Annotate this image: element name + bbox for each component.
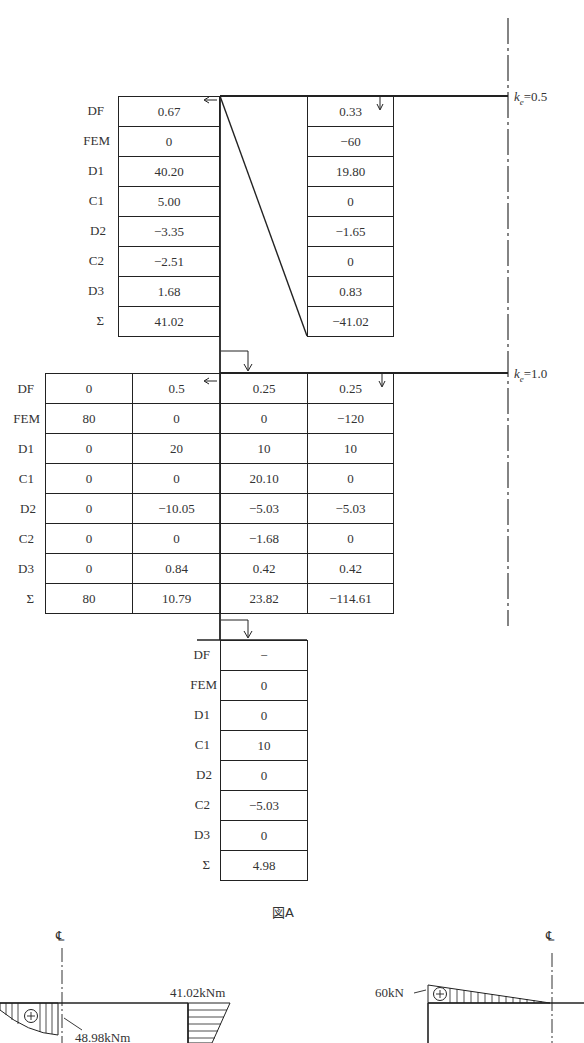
row-label-df: DF	[170, 647, 210, 663]
mid-col3-df: 0.25	[307, 373, 394, 404]
bottom-df: −	[220, 640, 308, 671]
row-label-d1: D1	[0, 441, 34, 457]
stiffness-label-middle: ke=1.0	[514, 366, 547, 384]
row-label-c1: C1	[0, 471, 34, 487]
row-label-fem: FEM	[70, 133, 110, 149]
row-label-c1: C1	[64, 193, 104, 209]
mid-col2-d2: −5.03	[220, 493, 308, 524]
figure-caption: 図A	[272, 902, 294, 921]
row-label-d3: D3	[64, 283, 104, 299]
carryover-bracket-2	[221, 620, 248, 637]
row-label-c2: C2	[170, 797, 210, 813]
row-label-df: DF	[0, 381, 34, 397]
top-left-fem: 0	[118, 126, 220, 157]
top-right-sum: −41.02	[307, 306, 394, 337]
bottom-d3: 0	[220, 820, 308, 851]
mid-col3-d1: 10	[307, 433, 394, 464]
row-label-sum: Σ	[64, 313, 104, 329]
top-right-c2: 0	[307, 246, 394, 277]
mid-col2-d3: 0.42	[220, 553, 308, 584]
mid-col3-d3: 0.42	[307, 553, 394, 584]
row-label-d3: D3	[0, 561, 34, 577]
mid-col0-d1: 0	[45, 433, 133, 464]
row-label-c1: C1	[170, 737, 210, 753]
mid-col2-d1: 10	[220, 433, 308, 464]
mid-col0-sum: 80	[45, 583, 133, 614]
mid-col0-d3: 0	[45, 553, 133, 584]
mid-col1-c2: 0	[132, 523, 221, 554]
row-label-sum: Σ	[170, 857, 210, 873]
mid-col3-c2: 0	[307, 523, 394, 554]
mid-col0-df: 0	[45, 373, 133, 404]
top-left-d1: 40.20	[118, 156, 220, 187]
carryover-diagonal	[220, 96, 307, 336]
row-label-d2: D2	[0, 501, 36, 517]
mid-col1-d1: 20	[132, 433, 221, 464]
bottom-d1: 0	[220, 700, 308, 731]
end-moment-label: 41.02kNm	[170, 985, 225, 1001]
mid-col3-fem: −120	[307, 403, 394, 434]
mid-col3-sum: −114.61	[307, 583, 394, 614]
top-right-df: 0.33	[307, 96, 394, 127]
bottom-c1: 10	[220, 730, 308, 761]
bottom-sum: 4.98	[220, 850, 308, 881]
mid-col1-sum: 10.79	[132, 583, 221, 614]
row-label-fem: FEM	[177, 677, 217, 693]
mid-col1-d3: 0.84	[132, 553, 221, 584]
bottom-d2: 0	[220, 760, 308, 791]
carryover-bracket-1	[221, 351, 248, 370]
row-label-fem: FEM	[0, 411, 40, 427]
mid-col2-c2: −1.68	[220, 523, 308, 554]
top-right-c1: 0	[307, 186, 394, 217]
mid-col3-c1: 0	[307, 463, 394, 494]
mid-col1-df: 0.5	[132, 373, 221, 404]
row-label-sum: Σ	[0, 591, 34, 607]
row-label-c2: C2	[64, 253, 104, 269]
mid-col0-c1: 0	[45, 463, 133, 494]
centerline-symbol-left: ℄	[56, 928, 64, 944]
mid-moment-label: 48.98kNm	[75, 1030, 130, 1043]
top-right-d3: 0.83	[307, 276, 394, 307]
top-left-df: 0.67	[118, 96, 220, 127]
mid-col0-c2: 0	[45, 523, 133, 554]
row-label-d3: D3	[170, 827, 210, 843]
row-label-d1: D1	[64, 163, 104, 179]
bottom-c2: −5.03	[220, 790, 308, 821]
top-right-d1: 19.80	[307, 156, 394, 187]
row-label-d2: D2	[66, 223, 106, 239]
row-label-d1: D1	[170, 707, 210, 723]
row-label-c2: C2	[0, 531, 34, 547]
shear-label: 60kN	[375, 985, 404, 1001]
mid-col2-sum: 23.82	[220, 583, 308, 614]
centerline-symbol-right: ℄	[546, 928, 554, 944]
top-left-sum: 41.02	[118, 306, 220, 337]
top-right-d2: −1.65	[307, 216, 394, 247]
row-label-df: DF	[64, 103, 104, 119]
bottom-fem: 0	[220, 670, 308, 701]
mid-col1-d2: −10.05	[132, 493, 221, 524]
mid-col2-fem: 0	[220, 403, 308, 434]
top-left-c2: −2.51	[118, 246, 220, 277]
mid-col2-c1: 20.10	[220, 463, 308, 494]
top-left-d2: −3.35	[118, 216, 220, 247]
mid-col0-fem: 80	[45, 403, 133, 434]
stiffness-label-top: ke=0.5	[514, 89, 547, 107]
top-left-d3: 1.68	[118, 276, 220, 307]
row-label-d2: D2	[172, 767, 212, 783]
mid-col3-d2: −5.03	[307, 493, 394, 524]
mid-col2-df: 0.25	[220, 373, 308, 404]
top-left-c1: 5.00	[118, 186, 220, 217]
mid-col1-fem: 0	[132, 403, 221, 434]
top-right-fem: −60	[307, 126, 394, 157]
mid-col0-d2: 0	[45, 493, 133, 524]
mid-col1-c1: 0	[132, 463, 221, 494]
